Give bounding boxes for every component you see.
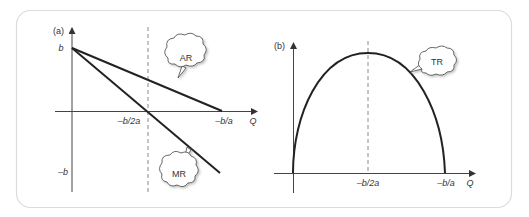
panel-a-label: (a) xyxy=(53,26,64,36)
tr-label: TR xyxy=(431,57,443,67)
y-tick-b: b xyxy=(58,43,63,53)
ar-label: AR xyxy=(180,53,193,63)
x-axis-label-q: Q xyxy=(249,116,256,126)
x-axis-label-q: Q xyxy=(466,178,473,188)
x-tick-neg-b-2a: –b/2a xyxy=(356,178,380,188)
x-tick-neg-b-a: –b/a xyxy=(214,116,233,126)
x-tick-neg-b-2a: –b/2a xyxy=(117,116,141,126)
x-tick-neg-b-a: –b/a xyxy=(436,178,455,188)
figure-canvas: (a) b –b –b/2a –b/a Q AR MR (b) xyxy=(0,0,529,217)
mr-label: MR xyxy=(172,169,186,179)
y-tick-neg-b: –b xyxy=(57,167,68,177)
panel-b-label: (b) xyxy=(274,41,285,51)
